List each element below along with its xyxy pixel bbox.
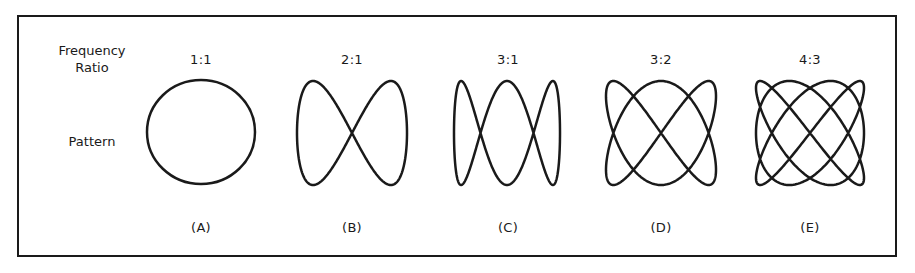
pattern-a-circle	[147, 80, 255, 184]
lissajous-figures	[0, 0, 915, 273]
pattern-d-lissajous	[606, 81, 716, 185]
pattern-e-lissajous	[756, 81, 864, 185]
pattern-b-lissajous	[297, 81, 407, 185]
pattern-c-lissajous	[454, 81, 560, 185]
